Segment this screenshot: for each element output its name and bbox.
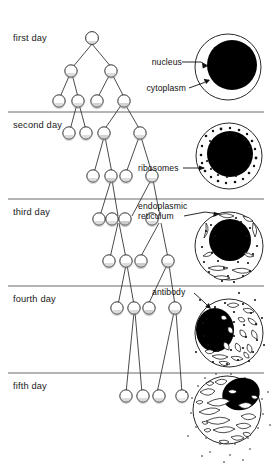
- day-label-second: second day: [13, 120, 62, 130]
- lineage-edge: [176, 312, 182, 393]
- lineage-edge: [72, 44, 92, 68]
- lineage-edge: [140, 223, 159, 258]
- lineage-cell: [119, 213, 131, 227]
- lineage-cell: [143, 302, 155, 316]
- lineage-cell: [162, 255, 174, 269]
- lineage-cell: [91, 95, 103, 109]
- lineage-cell: [135, 255, 147, 269]
- lineage-edge: [105, 137, 112, 173]
- lineage-cell: [86, 32, 99, 45]
- nucleus-body: [207, 131, 253, 177]
- lineage-cell: [111, 302, 123, 316]
- lineage-cell: [120, 390, 132, 404]
- lineage-cell: [106, 213, 118, 227]
- lineage-cell: [98, 127, 110, 141]
- lineage-cell: [103, 255, 115, 269]
- day-label-third: third day: [13, 207, 50, 217]
- lineage-edge: [169, 265, 175, 305]
- label-antibody: antibody: [152, 287, 186, 297]
- lineage-edge: [92, 44, 112, 68]
- lineage-cell: [118, 95, 130, 109]
- lineage-cell: [137, 390, 149, 404]
- lineage-cell: [53, 95, 65, 109]
- day-labels: first day second day third day fourth da…: [13, 33, 62, 391]
- nucleus-body: [207, 40, 257, 90]
- lineage-cell: [93, 213, 105, 227]
- lineage-cell: [105, 170, 117, 184]
- cell-diagram-day3: [195, 212, 263, 283]
- day-label-fourth: fourth day: [13, 294, 56, 304]
- label-cytoplasm: cytoplasm: [146, 83, 186, 93]
- lineage-edge: [157, 312, 174, 393]
- lineage-edge: [135, 312, 142, 393]
- lineage-edge: [161, 223, 168, 258]
- label-reticulum: reticulum: [138, 211, 174, 221]
- lineage-cell: [120, 255, 132, 269]
- lineage-edge: [104, 104, 122, 130]
- day-label-first: first day: [13, 33, 47, 43]
- label-nucleus: nucleus: [152, 57, 182, 67]
- day-label-fifth: fifth day: [13, 381, 47, 391]
- lineage-cell: [120, 170, 132, 184]
- lineage-cell: [65, 65, 77, 79]
- lineage-cell: [128, 302, 140, 316]
- lineage-cell: [134, 127, 146, 141]
- lineage-edge: [100, 180, 111, 216]
- lineage-edge: [126, 312, 134, 393]
- cell-diagram-day5: [185, 373, 271, 463]
- label-endoplasmic: endoplasmic: [138, 201, 188, 211]
- lineage-edge: [118, 265, 126, 305]
- lineage-cell: [105, 65, 117, 79]
- lineage-edge: [94, 137, 104, 173]
- figure-canvas: first day second day third day fourth da…: [0, 0, 272, 472]
- lineage-cell: [153, 390, 165, 404]
- lineage-edge: [148, 265, 167, 305]
- lineage-cell: [72, 95, 84, 109]
- cell-diagram-day2: [196, 123, 262, 189]
- lineage-cell: [80, 127, 92, 141]
- lineage-edge: [110, 223, 118, 258]
- lineage-edge: [112, 180, 118, 216]
- label-ribosomes: ribosomes: [138, 163, 179, 173]
- lineage-edge: [119, 223, 126, 258]
- lineage-cell: [87, 170, 99, 184]
- lineage-cell: [169, 302, 181, 316]
- lineage-edge: [127, 265, 134, 305]
- lineage-cell: [63, 127, 75, 141]
